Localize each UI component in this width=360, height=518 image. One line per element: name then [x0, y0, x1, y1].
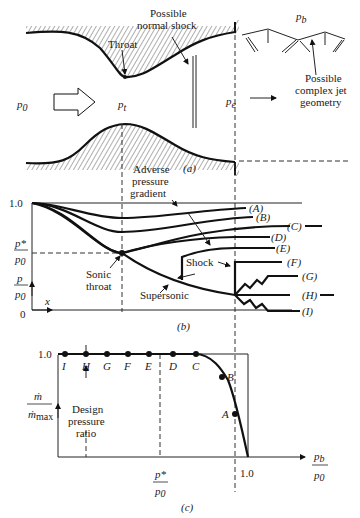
design-3: ratio [76, 427, 97, 439]
panel-a-nozzle: Throat Possible normal shock p0 pt pe pb… [16, 7, 350, 492]
panel-c-massflow: 1.0 I H G F E D C B A ṁ ṁmax Design pres… [27, 345, 328, 514]
pb-den: p0 [313, 469, 325, 483]
design-2: pressure [68, 415, 105, 427]
point-h: H [81, 360, 91, 372]
point-i: I [61, 360, 67, 372]
point-e: E [144, 360, 152, 372]
point-d: D [168, 360, 177, 372]
p-den: p0 [14, 288, 26, 302]
sonic-1: Sonic [86, 268, 111, 280]
curve-label-g: (G) [302, 270, 318, 283]
adverse-1: Adverse [133, 163, 170, 175]
adverse-2: pressure [132, 175, 169, 187]
b-ytick-0: 0 [20, 308, 26, 320]
adverse-3: gradient [130, 187, 166, 199]
normal-shock-label: normal shock [137, 19, 197, 31]
curve-label-f: (F) [287, 256, 301, 269]
c-ytick-1: 1.0 [38, 348, 52, 360]
nozzle-diagram: Throat Possible normal shock p0 pt pe pb… [0, 0, 360, 518]
caption-b: (b) [177, 320, 190, 333]
pe-label: pe [225, 95, 237, 110]
mdot-den: ṁmax [28, 408, 53, 422]
mdot-num: ṁ [34, 390, 42, 402]
point-c: C [192, 360, 200, 372]
x-label: x [44, 295, 50, 307]
pt-label: pt [117, 98, 127, 113]
sonic-2: throat [86, 280, 112, 292]
jet-geometry [242, 29, 345, 53]
c-pstar-num: p* [154, 468, 167, 480]
point-g: G [103, 360, 111, 372]
pb-label: pb [295, 10, 307, 25]
panel-b-pressure: 1.0 0 p* p0 p p0 x Adverse pressure grad… [9, 163, 334, 333]
c-xtick-1: 1.0 [240, 467, 254, 479]
pstar-den: p0 [14, 253, 26, 267]
caption-c: (c) [181, 501, 194, 514]
jet-label-1: Possible [305, 72, 342, 84]
jet-label-3: geometry [300, 96, 342, 108]
curve-label-b: (B) [256, 211, 270, 224]
curve-label-i: (I) [302, 305, 313, 318]
caption-a: (a) [183, 162, 196, 175]
jet-label-2: complex jet [295, 84, 347, 96]
p-num: p [16, 272, 23, 284]
possible-label: Possible [150, 7, 187, 19]
c-pstar-den: p0 [154, 485, 166, 499]
shock-label: Shock [186, 256, 214, 268]
point-b: B [227, 371, 234, 383]
point-f: F [123, 360, 131, 372]
flow-arrow-icon [54, 88, 95, 116]
design-1: Design [72, 403, 104, 415]
supersonic-label: Supersonic [140, 289, 189, 301]
curve-label-c: (C) [287, 220, 302, 233]
pstar-num: p* [14, 237, 27, 249]
curve-label-e: (E) [276, 242, 290, 255]
pb-num: pb [313, 450, 325, 464]
throat-label: Throat [108, 38, 137, 50]
curve-label-h: (H) [302, 289, 318, 302]
b-ytick-1: 1.0 [9, 197, 23, 209]
point-a: A [221, 408, 229, 420]
p0-label: p0 [16, 98, 28, 113]
